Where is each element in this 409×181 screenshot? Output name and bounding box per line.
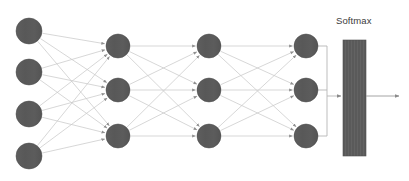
edge [218, 55, 296, 127]
softmax-bracket [318, 46, 341, 136]
edge [42, 75, 105, 88]
edge [220, 95, 294, 130]
hidden-layer-1-node [106, 124, 130, 148]
output-layer-node [294, 78, 318, 102]
hidden-layer-1-node [106, 34, 130, 58]
input-layer-node [16, 18, 42, 44]
edge [129, 96, 197, 130]
input-layer-node [16, 59, 42, 85]
node-group [16, 18, 318, 169]
network-canvas [0, 0, 409, 181]
hidden-layer-2-node [197, 124, 221, 148]
edge [220, 52, 293, 85]
hidden-layer-2-node [197, 34, 221, 58]
output-layer-node [294, 124, 318, 148]
edge [220, 96, 294, 131]
softmax-bar-rect [343, 40, 366, 156]
softmax-label: Softmax [336, 16, 372, 26]
edge [40, 54, 108, 106]
edge [218, 55, 296, 127]
edge [127, 55, 200, 127]
edge [40, 80, 107, 128]
edge [42, 94, 105, 111]
edge [38, 41, 110, 125]
softmax-bar [343, 40, 366, 156]
edge-group [37, 33, 296, 153]
hidden-layer-2-node [197, 78, 221, 102]
edge [42, 139, 105, 153]
edge [127, 55, 200, 127]
edge [42, 33, 104, 44]
edge [42, 50, 105, 68]
edge [129, 96, 197, 130]
edge [37, 56, 109, 145]
neural-network-diagram: Softmax [0, 0, 409, 181]
hidden-layer-1-node [106, 78, 130, 102]
output-layer-node [294, 34, 318, 58]
input-layer-node [16, 101, 42, 127]
input-layer-node [16, 143, 42, 169]
